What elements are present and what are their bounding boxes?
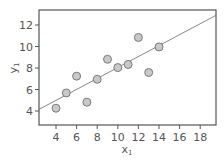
data-point bbox=[93, 75, 101, 83]
x-tick-label: 16 bbox=[173, 131, 187, 144]
y-tick-label: 12 bbox=[19, 19, 33, 32]
x-tick-label: 8 bbox=[94, 131, 101, 144]
x-tick-label: 12 bbox=[131, 131, 145, 144]
x-axis-label: x1 bbox=[122, 143, 133, 157]
data-point bbox=[104, 55, 112, 63]
data-point bbox=[62, 89, 70, 97]
data-point bbox=[124, 60, 132, 68]
x-tick-label: 6 bbox=[73, 131, 80, 144]
scatter-chart: 46810121416184681012 x1 y1 bbox=[0, 0, 224, 165]
data-point bbox=[83, 98, 91, 106]
y-tick-label: 4 bbox=[26, 105, 33, 118]
data-point bbox=[155, 43, 163, 51]
data-point bbox=[73, 72, 81, 80]
y-tick-label: 10 bbox=[19, 41, 33, 54]
data-point bbox=[134, 33, 142, 41]
x-tick-label: 18 bbox=[193, 131, 207, 144]
x-tick-label: 4 bbox=[53, 131, 60, 144]
data-point bbox=[52, 104, 60, 112]
y-axis-label: y1 bbox=[7, 63, 21, 74]
y-tick-label: 6 bbox=[26, 84, 33, 97]
data-point bbox=[114, 64, 122, 72]
x-tick-label: 14 bbox=[152, 131, 166, 144]
y-tick-label: 8 bbox=[26, 62, 33, 75]
data-point bbox=[145, 69, 153, 77]
